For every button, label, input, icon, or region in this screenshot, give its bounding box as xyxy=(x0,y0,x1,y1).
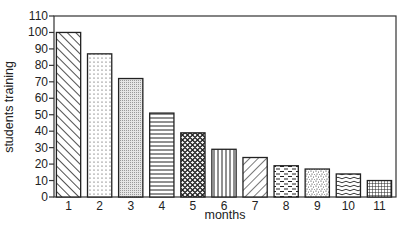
y-tick-label: 100 xyxy=(28,25,48,39)
bar-month-7 xyxy=(243,158,267,197)
y-tick-label: 20 xyxy=(35,157,49,171)
y-tick-label: 110 xyxy=(29,9,48,23)
y-axis-title: students training xyxy=(2,61,16,153)
y-tick-label: 30 xyxy=(35,141,49,155)
y-tick-label: 80 xyxy=(35,58,49,72)
x-tick-label: 3 xyxy=(127,199,134,213)
y-tick-label: 60 xyxy=(35,91,49,105)
bar-month-4 xyxy=(150,113,174,197)
x-tick-label: 9 xyxy=(314,199,321,213)
x-tick-label: 10 xyxy=(342,199,356,213)
bar-month-1 xyxy=(56,32,80,197)
y-tick-label: 50 xyxy=(35,108,49,122)
bar-month-6 xyxy=(212,149,236,197)
x-tick-label: 4 xyxy=(158,199,165,213)
bar-month-5 xyxy=(181,133,205,197)
bar-month-11 xyxy=(367,181,391,197)
bar-month-9 xyxy=(305,169,329,197)
y-tick-label: 0 xyxy=(41,190,48,204)
x-tick-label: 5 xyxy=(190,199,197,213)
x-tick-label: 7 xyxy=(252,199,259,213)
x-tick-label: 8 xyxy=(283,199,290,213)
bar-month-10 xyxy=(336,174,360,197)
y-tick-label: 70 xyxy=(35,75,49,89)
y-tick-label: 10 xyxy=(35,174,49,188)
bars xyxy=(56,32,391,197)
bar-month-2 xyxy=(88,54,112,197)
x-axis-title: months xyxy=(205,208,246,222)
y-tick-label: 40 xyxy=(35,124,49,138)
bar-month-8 xyxy=(274,166,298,197)
x-tick-label: 1 xyxy=(65,199,72,213)
y-tick-label: 90 xyxy=(35,42,49,56)
bar-chart: 0102030405060708090100110 1234567891011 … xyxy=(0,0,411,238)
y-axis: 0102030405060708090100110 xyxy=(28,9,54,204)
x-tick-label: 2 xyxy=(96,199,103,213)
bar-month-3 xyxy=(119,79,143,197)
x-tick-label: 11 xyxy=(373,199,386,213)
